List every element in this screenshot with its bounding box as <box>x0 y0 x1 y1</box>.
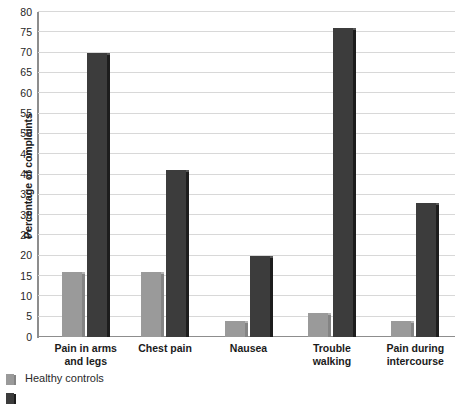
bar-edge <box>186 172 189 337</box>
chart-legend: Healthy controls <box>6 372 446 408</box>
bar <box>391 321 414 337</box>
bar-group <box>141 12 189 337</box>
y-tick-label-5: 5 <box>2 311 32 322</box>
bar-face <box>225 321 245 337</box>
bar-edge <box>161 274 164 337</box>
y-tick-label-25: 25 <box>2 230 32 241</box>
y-tick-label-65: 65 <box>2 67 32 78</box>
y-tick-label-35: 35 <box>2 189 32 200</box>
bar-group <box>62 12 110 337</box>
y-tick-label-10: 10 <box>2 291 32 302</box>
bar-cap <box>82 272 85 274</box>
y-tick-label-50: 50 <box>2 128 32 139</box>
bar <box>62 272 85 337</box>
bar <box>166 170 189 337</box>
bar-edge <box>107 55 110 337</box>
y-tick-label-15: 15 <box>2 271 32 282</box>
bar-cap <box>270 256 273 258</box>
bar-face <box>250 256 270 337</box>
bar-cap <box>107 53 110 55</box>
bar-cap <box>245 321 248 323</box>
bar-group <box>308 12 356 337</box>
bar-edge <box>82 274 85 337</box>
bar-edge <box>353 30 356 337</box>
x-tick-line: Pain during <box>360 342 455 355</box>
bar-face <box>391 321 411 337</box>
x-tick-label: Pain duringintercourse <box>360 342 455 367</box>
legend-item <box>6 391 446 408</box>
bar-edge <box>411 323 414 337</box>
bar-edge <box>245 323 248 337</box>
bar-cap <box>328 313 331 315</box>
bar-edge <box>328 315 331 337</box>
bar-face <box>166 170 186 337</box>
legend-item: Healthy controls <box>6 372 446 391</box>
bar-cap <box>436 203 439 205</box>
y-tick-label-40: 40 <box>2 169 32 180</box>
bar <box>333 28 356 337</box>
bar-edge <box>270 258 273 337</box>
legend-swatch-dark <box>6 393 16 404</box>
bar <box>250 256 273 337</box>
bar-edge <box>436 205 439 337</box>
y-tick-label-80: 80 <box>2 7 32 18</box>
y-tick-label-0: 0 <box>2 332 32 343</box>
legend-label: Healthy controls <box>25 372 104 384</box>
bar-face <box>141 272 161 337</box>
bar-cap <box>186 170 189 172</box>
y-tick-label-30: 30 <box>2 210 32 221</box>
x-tick-line: intercourse <box>360 355 455 368</box>
bar <box>416 203 439 337</box>
y-tick-label-45: 45 <box>2 149 32 160</box>
bar <box>141 272 164 337</box>
bar-group <box>391 12 439 337</box>
y-tick-label-60: 60 <box>2 88 32 99</box>
y-tick-label-75: 75 <box>2 27 32 38</box>
bar <box>87 53 110 337</box>
bar-group <box>225 12 273 337</box>
bar-cap <box>353 28 356 30</box>
bar-cap <box>161 272 164 274</box>
bar-face <box>416 203 436 337</box>
y-tick-label-70: 70 <box>2 47 32 58</box>
y-tick-label-55: 55 <box>2 108 32 119</box>
bar-face <box>308 313 328 337</box>
x-tick-line: and legs <box>31 355 141 368</box>
bar-face <box>62 272 82 337</box>
bar <box>225 321 248 337</box>
bar-cap <box>411 321 414 323</box>
bar-face <box>333 28 353 337</box>
y-tick-label-20: 20 <box>2 250 32 261</box>
bar <box>308 313 331 337</box>
bar-face <box>87 53 107 337</box>
plot-area <box>38 12 455 337</box>
legend-swatch-light <box>6 374 16 385</box>
